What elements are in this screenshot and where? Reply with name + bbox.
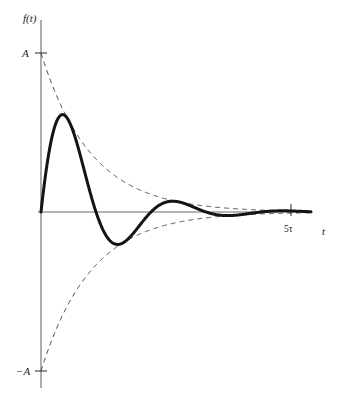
damped-oscillation-plot: f(t) t A −A 5τ (0, 0, 341, 394)
damped-signal-curve (41, 115, 311, 245)
x-axis-label: t (322, 225, 326, 237)
y-axis-label: f(t) (23, 12, 37, 25)
upper-envelope-curve (41, 53, 311, 211)
figure-root: f(t) t A −A 5τ (0, 0, 341, 394)
positive-amplitude-label: A (21, 47, 29, 59)
negative-amplitude-label: −A (16, 365, 30, 377)
five-tau-tick-label: 5τ (284, 224, 293, 234)
lower-envelope-curve (41, 213, 311, 371)
